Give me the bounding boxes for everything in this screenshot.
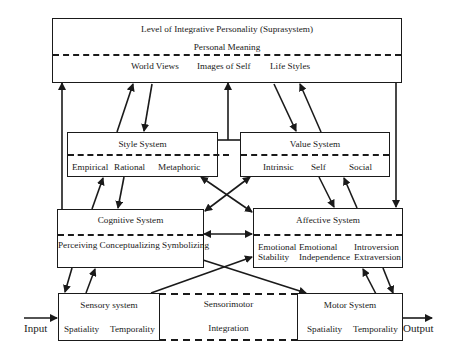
metaphoric-label: Metaphoric: [158, 162, 200, 172]
value-system-title: Value System: [241, 139, 389, 149]
emotional-independence-line1: Emotional: [299, 242, 337, 252]
suprasystem-title: Level of Integrative Personality (Supras…: [53, 24, 401, 34]
output-label: Output: [403, 322, 434, 334]
sensory-system-title: Sensory system: [59, 300, 159, 310]
emotional-independence-line2: Independence: [299, 252, 350, 262]
life-styles-label: Life Styles: [270, 61, 310, 71]
motor-temporality-label: Temporality: [353, 324, 398, 334]
motor-system-box: Motor System Spatiality Temporality: [297, 293, 403, 341]
sensory-spatiality-label: Spatiality: [64, 324, 99, 334]
value-system-box: Value System Intrinsic Self Social: [240, 132, 390, 177]
sensory-temporality-label: Temporality: [110, 324, 155, 334]
style-system-title: Style System: [68, 139, 217, 149]
world-views-label: World Views: [131, 61, 179, 71]
suprasystem-divider: [53, 54, 401, 56]
integration-label: Integration: [160, 323, 297, 333]
self-label: Self: [311, 162, 326, 172]
affective-system-divider: [254, 234, 402, 236]
intrinsic-label: Intrinsic: [263, 162, 294, 172]
emotional-stability-line2: Stability: [258, 252, 289, 262]
motor-system-title: Motor System: [298, 300, 402, 310]
input-label: Input: [24, 322, 47, 334]
social-label: Social: [349, 162, 372, 172]
cognitive-system-box: Cognitive System Perceiving Conceptualiz…: [57, 209, 204, 268]
sensorimotor-label: Sensorimotor: [160, 299, 297, 309]
sensory-system-box: Sensory system Spatiality Temporality: [58, 293, 160, 341]
motor-spatiality-label: Spatiality: [307, 324, 342, 334]
images-of-self-label: Images of Self: [197, 61, 251, 71]
affective-system-title: Affective System: [254, 215, 402, 225]
suprasystem-box: Level of Integrative Personality (Supras…: [52, 18, 402, 83]
introversion-extraversion-line1: Introversion: [354, 242, 399, 252]
cognitive-system-title: Cognitive System: [58, 215, 203, 225]
introversion-extraversion-line2: Extraversion: [354, 252, 401, 262]
rational-label: Rational: [114, 162, 145, 172]
style-system-box: Style System Empirical Rational Metaphor…: [67, 132, 218, 177]
sensorimotor-integration-region: Sensorimotor Integration: [160, 294, 297, 340]
empirical-label: Empirical: [72, 162, 108, 172]
perceiving-conceptualizing-symbolizing-label: Perceiving Conceptualizing Symbolizing: [58, 240, 203, 250]
affective-system-box: Affective System Emotional Stability Emo…: [253, 208, 403, 268]
personal-meaning-label: Personal Meaning: [53, 42, 401, 52]
cognitive-system-divider: [58, 234, 203, 236]
emotional-stability-line1: Emotional: [258, 242, 296, 252]
value-system-divider: [241, 154, 389, 156]
style-system-divider: [68, 154, 229, 156]
